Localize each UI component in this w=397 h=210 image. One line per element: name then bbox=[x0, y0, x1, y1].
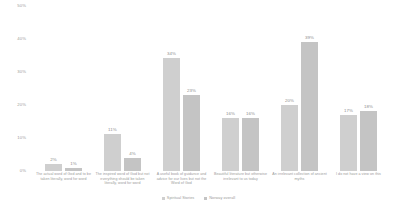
bar-chart: 50% 40% 30% 20% 10% 0% 2%1%11%4%34%23%16… bbox=[0, 0, 397, 210]
legend-label: Spiritual Stories bbox=[167, 196, 194, 201]
bar-group: 16%16% bbox=[211, 5, 270, 171]
bar[interactable] bbox=[65, 168, 82, 171]
x-axis-category-label: Beautiful literature but otherwise irrel… bbox=[211, 172, 270, 196]
x-axis-category-label: The actual word of God and to be taken l… bbox=[34, 172, 93, 196]
bar-value-label: 4% bbox=[129, 151, 136, 157]
bar-wrapper: 39% bbox=[301, 5, 318, 171]
bar-wrapper: 17% bbox=[340, 5, 357, 171]
bar-wrapper: 34% bbox=[163, 5, 180, 171]
bar[interactable] bbox=[124, 158, 141, 171]
x-axis-category-label: The inspired word of God but not everyth… bbox=[93, 172, 152, 196]
y-axis-tick: 40% bbox=[17, 36, 26, 41]
x-axis-category-label: I do not have a view on this bbox=[329, 172, 388, 196]
bar-wrapper: 4% bbox=[124, 5, 141, 171]
legend-item[interactable]: Norway overall bbox=[204, 196, 235, 201]
x-axis-category-label: A useful book of guidance and advice for… bbox=[152, 172, 211, 196]
bar-wrapper: 20% bbox=[281, 5, 298, 171]
y-axis-tick: 0% bbox=[20, 168, 26, 173]
bar-value-label: 1% bbox=[70, 161, 77, 167]
bar[interactable] bbox=[281, 105, 298, 171]
bar-group: 11%4% bbox=[93, 5, 152, 171]
bar-group: 34%23% bbox=[152, 5, 211, 171]
y-axis-tick: 10% bbox=[17, 135, 26, 140]
bar-value-label: 16% bbox=[246, 111, 255, 117]
bar-wrapper: 1% bbox=[65, 5, 82, 171]
bar-value-label: 17% bbox=[344, 108, 353, 114]
bar-value-label: 16% bbox=[226, 111, 235, 117]
bar-group: 17%18% bbox=[329, 5, 388, 171]
bar-wrapper: 16% bbox=[242, 5, 259, 171]
bar-group: 2%1% bbox=[34, 5, 93, 171]
legend-label: Norway overall bbox=[209, 196, 235, 201]
bar-value-label: 11% bbox=[108, 127, 117, 133]
legend-item[interactable]: Spiritual Stories bbox=[162, 196, 194, 201]
bar[interactable] bbox=[104, 134, 121, 171]
y-axis: 50% 40% 30% 20% 10% 0% bbox=[0, 0, 30, 171]
bar-group: 20%39% bbox=[270, 5, 329, 171]
bar[interactable] bbox=[340, 115, 357, 171]
bar-value-label: 39% bbox=[305, 35, 314, 41]
bar-wrapper: 23% bbox=[183, 5, 200, 171]
bar[interactable] bbox=[360, 111, 377, 171]
bar-wrapper: 11% bbox=[104, 5, 121, 171]
y-axis-tick: 20% bbox=[17, 102, 26, 107]
x-axis-category-label: An irrelevant collection of ancient myth… bbox=[270, 172, 329, 196]
y-axis-tick: 30% bbox=[17, 69, 26, 74]
legend-swatch-icon bbox=[162, 197, 165, 200]
y-axis-tick: 50% bbox=[17, 3, 26, 8]
bar[interactable] bbox=[163, 58, 180, 171]
bar-value-label: 18% bbox=[364, 104, 373, 110]
bar[interactable] bbox=[222, 118, 239, 171]
bar[interactable] bbox=[301, 42, 318, 171]
bar-value-label: 34% bbox=[167, 51, 176, 57]
bar[interactable] bbox=[183, 95, 200, 171]
bar-wrapper: 18% bbox=[360, 5, 377, 171]
chart-legend: Spiritual StoriesNorway overall bbox=[0, 196, 397, 201]
x-axis-category-labels: The actual word of God and to be taken l… bbox=[30, 172, 392, 196]
bar-wrapper: 16% bbox=[222, 5, 239, 171]
bar[interactable] bbox=[45, 164, 62, 171]
bar-value-label: 2% bbox=[50, 157, 57, 163]
legend-swatch-icon bbox=[204, 197, 207, 200]
bar-value-label: 20% bbox=[285, 98, 294, 104]
bar-wrapper: 2% bbox=[45, 5, 62, 171]
bar[interactable] bbox=[242, 118, 259, 171]
plot-area: 2%1%11%4%34%23%16%16%20%39%17%18% bbox=[30, 5, 392, 171]
bar-value-label: 23% bbox=[187, 88, 196, 94]
bar-groups: 2%1%11%4%34%23%16%16%20%39%17%18% bbox=[30, 5, 392, 171]
